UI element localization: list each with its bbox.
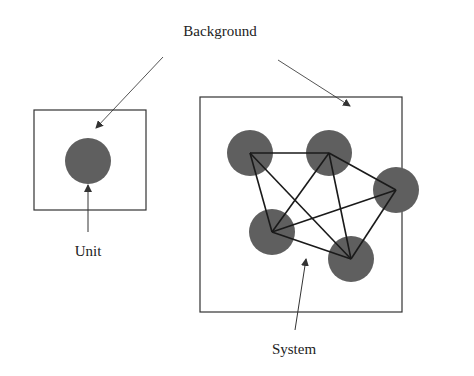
edge-b-d xyxy=(272,153,329,232)
edge-c-e xyxy=(351,190,396,259)
unit-node xyxy=(65,138,111,184)
unit-system-diagram: Background Unit System xyxy=(0,0,474,376)
system-arrow xyxy=(295,259,306,330)
unit-panel: Unit xyxy=(34,110,146,259)
background-arrow-to-system xyxy=(278,60,350,106)
background-label: Background xyxy=(183,23,257,39)
system-background-box xyxy=(200,97,402,312)
background-arrow-to-unit xyxy=(96,57,163,128)
system-label: System xyxy=(272,341,317,357)
system-panel: System xyxy=(200,97,419,357)
unit-label: Unit xyxy=(75,243,103,259)
